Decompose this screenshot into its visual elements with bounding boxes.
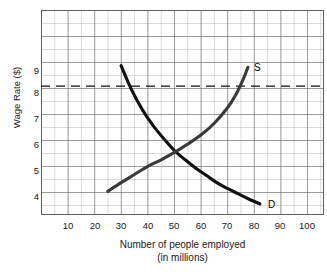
y-tick-label-5: 5 [17, 166, 39, 176]
x-tick-label-10: 10 [55, 221, 81, 231]
y-tick-label-7: 7 [17, 114, 39, 124]
supply-demand-chart: S D Wage Rate ($) 9 8 7 6 5 4 10 20 30 4… [0, 0, 327, 272]
x-tick-label-100: 100 [294, 221, 320, 231]
x-tick-label-90: 90 [267, 221, 293, 231]
demand-curve-label: D [268, 200, 275, 210]
x-tick-label-80: 80 [241, 221, 267, 231]
curves-layer [41, 10, 324, 215]
x-tick-label-40: 40 [135, 221, 161, 231]
x-tick-label-50: 50 [161, 221, 187, 231]
x-axis-title: Number of people employed [41, 239, 324, 251]
y-tick-label-9: 9 [17, 66, 39, 76]
x-tick-label-70: 70 [214, 221, 240, 231]
supply-curve-label: S [254, 63, 261, 73]
x-tick-label-30: 30 [108, 221, 134, 231]
y-tick-label-8: 8 [17, 88, 39, 98]
y-tick-label-4: 4 [17, 192, 39, 202]
x-axis-title-subline: (in millions) [41, 252, 324, 264]
x-tick-label-20: 20 [82, 221, 108, 231]
y-tick-label-6: 6 [17, 140, 39, 150]
x-tick-label-60: 60 [188, 221, 214, 231]
plot-area: S D [41, 10, 324, 215]
